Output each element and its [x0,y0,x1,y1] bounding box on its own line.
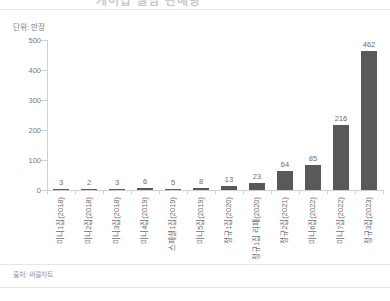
category-label-slot: 미니3집(2018) [103,197,131,267]
x-axis-category-label: 스페셜1집(2019) [169,197,177,251]
bar[interactable] [53,189,68,190]
x-axis-tick [187,190,188,194]
source-note: 출처: 써클차트 [13,269,53,279]
x-axis-tick [383,190,384,194]
bar-value-label: 8 [199,177,203,186]
category-label-slot: 미니2집(2018) [75,197,103,267]
bar[interactable] [361,51,376,190]
unit-caption: 단위: 만장 [13,21,45,32]
x-axis-category-label: 미니7집(2022) [337,197,345,244]
bar-value-label: 3 [59,178,63,187]
bar-slot[interactable]: 5 [165,40,180,190]
x-axis-tick [299,190,300,194]
bar[interactable] [137,188,152,190]
x-axis-tick [327,190,328,194]
y-axis-label: 400 [5,66,41,75]
bar-slot[interactable]: 23 [249,40,264,190]
x-axis-tick [355,190,356,194]
category-label-slot: 정규3집(2023) [355,197,383,267]
bar[interactable] [221,186,236,190]
x-axis-tick [271,190,272,194]
bar-value-label: 5 [171,178,175,187]
bar[interactable] [193,188,208,190]
y-axis-label: 200 [5,126,41,135]
bar[interactable] [81,189,96,190]
bar[interactable] [249,183,264,190]
category-label-slot: 미니7집(2022) [327,197,355,267]
bar-slot[interactable]: 3 [109,40,124,190]
x-axis-category-label: 미니1집(2018) [57,197,65,244]
bar-value-label: 64 [281,160,289,169]
x-axis-category-label: 미니5집(2019) [197,197,205,244]
bar-value-label: 23 [253,172,261,181]
bar-slot[interactable]: 85 [305,40,320,190]
cut-off-title-strip: 케이팝 앨범 판매량 [0,0,390,9]
bar[interactable] [305,165,320,191]
category-labels-layer: 미니1집(2018)미니2집(2018)미니3집(2018)미니4집(2019)… [47,197,383,267]
category-label-slot: 스페셜1집(2019) [159,197,187,267]
x-axis-tick [243,190,244,194]
x-axis-tick [103,190,104,194]
category-label-slot: 미니4집(2019) [131,197,159,267]
x-axis-category-label: 미니2집(2018) [85,197,93,244]
bar-slot[interactable]: 3 [53,40,68,190]
x-axis-tick [131,190,132,194]
bar-value-label: 13 [225,175,233,184]
y-axis-label: 100 [5,156,41,165]
bar[interactable] [165,189,180,191]
bar-slot[interactable]: 216 [333,40,348,190]
category-label-slot: 정규1집 리패(2020) [243,197,271,267]
x-axis-category-label: 정규3집(2023) [365,197,373,244]
x-axis-category-label: 미니3집(2018) [113,197,121,244]
category-label-slot: 미니1집(2018) [47,197,75,267]
x-axis-tick [159,190,160,194]
bar-slot[interactable]: 13 [221,40,236,190]
bar-value-label: 462 [363,40,376,49]
bar-value-label: 3 [115,178,119,187]
bar-value-label: 85 [309,154,317,163]
bar-value-label: 2 [87,178,91,187]
category-label-slot: 정규2집(2021) [271,197,299,267]
bar[interactable] [277,171,292,190]
y-axis-label: 500 [5,36,41,45]
bars-layer: 32365813236485216462 [47,40,383,190]
y-axis-label: 300 [5,96,41,105]
bar-slot[interactable]: 6 [137,40,152,190]
category-label-slot: 미니6집(2022) [299,197,327,267]
bar-slot[interactable]: 2 [81,40,96,190]
cut-off-title-text: 케이팝 앨범 판매량 [96,0,201,8]
bar-value-label: 216 [335,114,348,123]
footer-divider-bottom [0,287,390,288]
category-label-slot: 정규1집(2020) [215,197,243,267]
bar[interactable] [109,189,124,190]
y-axis-label: 0 [5,186,41,195]
category-label-slot: 미니5집(2019) [187,197,215,267]
bar-chart: 0100200300400500 32365813236485216462 미니… [0,32,390,262]
x-axis-tick [75,190,76,194]
x-axis-category-label: 정규2집(2021) [281,197,289,244]
x-axis-category-label: 정규1집(2020) [225,197,233,244]
x-axis-category-label: 미니4집(2019) [141,197,149,244]
footer-divider-top [0,264,390,265]
bar[interactable] [333,125,348,190]
header-divider [0,9,390,10]
bar-value-label: 6 [143,177,147,186]
bar-slot[interactable]: 8 [193,40,208,190]
x-axis-category-label: 정규1집 리패(2020) [253,197,261,260]
bar-slot[interactable]: 64 [277,40,292,190]
x-axis-category-label: 미니6집(2022) [309,197,317,244]
x-axis-tick [47,190,48,194]
x-axis-tick [215,190,216,194]
bar-slot[interactable]: 462 [361,40,376,190]
